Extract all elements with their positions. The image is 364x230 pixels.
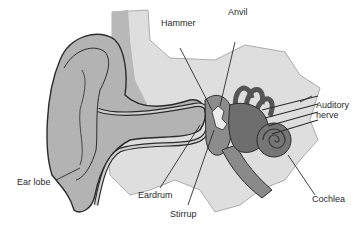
- ear-illustration: [0, 0, 364, 230]
- cochlea-shape: [257, 123, 291, 157]
- ear-anatomy-diagram: Hammer Anvil Auditory nerve Ear lobe Ear…: [0, 0, 364, 230]
- label-auditory-nerve: Auditory nerve: [316, 100, 349, 120]
- label-stirrup: Stirrup: [170, 209, 197, 219]
- label-anvil: Anvil: [228, 7, 248, 17]
- label-eardrum: Eardrum: [138, 190, 173, 200]
- label-cochlea: Cochlea: [312, 194, 345, 204]
- label-hammer: Hammer: [161, 18, 196, 28]
- label-ear-lobe: Ear lobe: [17, 177, 51, 187]
- leader-cochlea: [288, 155, 315, 195]
